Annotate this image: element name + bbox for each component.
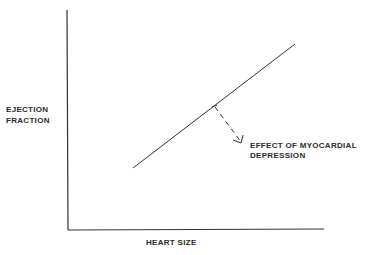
annotation-line2: DEPRESSION xyxy=(250,151,305,161)
annotation-line1: EFFECT OF MYOCARDIAL xyxy=(250,141,357,151)
x-axis-label: HEART SIZE xyxy=(146,238,197,248)
effect-arrow-shaft xyxy=(215,107,241,142)
y-axis-label-line1: EJECTION xyxy=(6,105,48,115)
x-axis xyxy=(68,229,324,230)
y-axis-label-line2: FRACTION xyxy=(6,116,50,126)
chart-canvas xyxy=(0,0,377,255)
arrow-head-icon xyxy=(233,135,243,143)
y-axis xyxy=(67,10,68,230)
